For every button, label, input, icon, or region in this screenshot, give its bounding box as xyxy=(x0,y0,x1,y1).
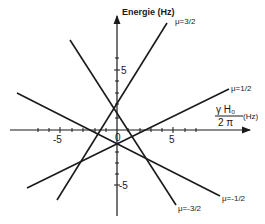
energy-level-diagram: Energie (Hz) μ=3/2 μ=1/2 μ=-1/2 μ=-3/2 γ… xyxy=(0,0,265,224)
line-label-mu-minus-3-2: μ=-3/2 xyxy=(178,204,202,213)
x-axis-label-denominator: 2 π xyxy=(218,117,233,128)
x-tick-label-neg5: -5 xyxy=(53,134,62,145)
y-axis-label: Energie (Hz) xyxy=(122,7,175,17)
y-tick-label-pos5: 5 xyxy=(121,65,127,76)
line-label-mu-1-2: μ=1/2 xyxy=(231,84,252,93)
line-label-mu-3-2: μ=3/2 xyxy=(175,17,196,26)
y-tick-label-neg5: -5 xyxy=(119,180,128,191)
x-tick-label-zero: 0 xyxy=(115,132,121,143)
x-axis-label-numerator: γ H₀ xyxy=(216,104,235,115)
line-mu-3-2 xyxy=(57,23,167,200)
x-axis-unit: (Hz) xyxy=(243,112,258,121)
x-tick-label-pos5: 5 xyxy=(169,134,175,145)
line-label-mu-minus-1-2: μ=-1/2 xyxy=(222,194,246,203)
